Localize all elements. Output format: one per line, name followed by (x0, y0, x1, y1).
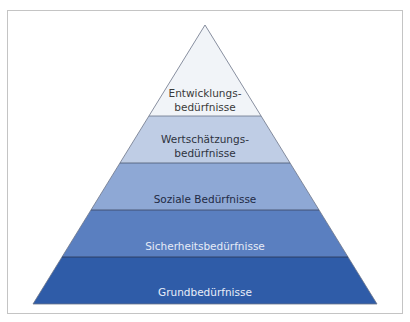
label-line: Wertschätzungs- (130, 132, 280, 146)
pyramid (0, 0, 410, 322)
label-line: Grundbedürfnisse (90, 285, 320, 299)
label-entwicklung: Entwicklungs- bedürfnisse (145, 86, 265, 114)
label-grund: Grundbedürfnisse (90, 285, 320, 299)
label-soziale: Soziale Bedürfnisse (110, 192, 300, 206)
label-line: bedürfnisse (130, 146, 280, 160)
label-line: Soziale Bedürfnisse (110, 192, 300, 206)
label-line: Entwicklungs- (145, 86, 265, 100)
label-line: bedürfnisse (145, 100, 265, 114)
label-sicherheit: Sicherheitsbedürfnisse (90, 239, 320, 253)
label-wertschaetzung: Wertschätzungs- bedürfnisse (130, 132, 280, 160)
label-line: Sicherheitsbedürfnisse (90, 239, 320, 253)
